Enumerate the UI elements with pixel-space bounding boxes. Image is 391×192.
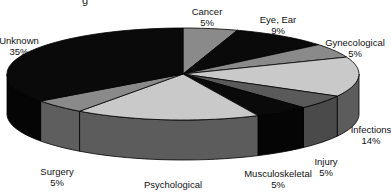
data-label-cancer: Cancer5% [192,6,223,28]
data-label-percent: 5% [325,48,385,59]
data-label-category: Injury [314,156,337,167]
data-label-category: Surgery [40,166,73,177]
data-label-gynecological: Gynecological5% [325,37,385,59]
data-label-percent: 9% [260,25,296,36]
data-label-category: Psychological [144,179,202,190]
data-label-percent: 5% [244,179,312,190]
data-label-percent: 5% [192,17,223,28]
data-label-category: Infections [351,124,391,135]
data-label-category: Gynecological [325,37,385,48]
data-label-unknown: Unknown35% [0,35,39,57]
data-label-percent: 14% [351,135,391,146]
data-label-psychological: Psychological17% [144,179,202,192]
data-label-percent: 5% [40,177,73,188]
data-label-percent: 35% [0,46,39,57]
data-label-infections: Infections14% [351,124,391,146]
data-label-category: Musculoskeletal [244,168,312,179]
data-label-injury: Injury5% [314,156,337,178]
data-label-musculoskeletal: Musculoskeletal5% [244,168,312,190]
data-label-percent: 17% [144,190,202,192]
data-label-category: Unknown [0,35,39,46]
data-label-eye-ear: Eye, Ear9% [260,14,296,36]
data-label-surgery: Surgery5% [40,166,73,188]
data-label-percent: 5% [314,167,337,178]
data-label-category: Cancer [192,6,223,17]
pie-slices [7,28,359,120]
data-label-category: Eye, Ear [260,14,296,25]
